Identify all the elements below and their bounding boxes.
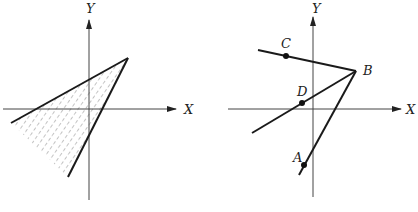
x-axis-label: X [405, 102, 416, 117]
right-figure: C D A B Y X [228, 1, 416, 197]
label-C: C [281, 36, 291, 51]
label-A: A [292, 150, 302, 165]
segment-AB [299, 71, 356, 175]
diagram-canvas: Y X C D A B Y X [0, 0, 418, 212]
label-B: B [362, 63, 373, 78]
y-axis-label: Y [312, 1, 322, 16]
hatched-region [11, 58, 128, 177]
point-C [283, 53, 289, 59]
segment-CB [258, 50, 356, 71]
x-axis-label: X [183, 102, 194, 117]
point-D [299, 100, 305, 106]
label-D: D [296, 84, 308, 99]
left-figure: Y X [3, 1, 194, 200]
y-axis-label: Y [86, 1, 96, 16]
